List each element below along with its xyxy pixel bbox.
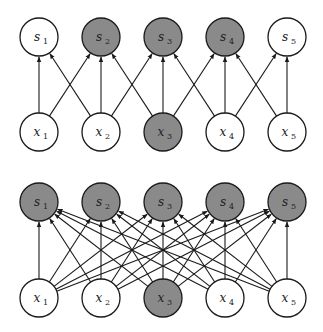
output-node-s3: s3	[144, 18, 182, 56]
input-node-x5: x5	[268, 113, 306, 151]
output-node-s2: s2	[82, 18, 120, 56]
output-node-s3: s3	[144, 183, 182, 221]
node-label: x	[282, 291, 289, 305]
node-subscript: 2	[105, 298, 110, 307]
node-label: s	[96, 30, 102, 44]
node-label: s	[282, 30, 288, 44]
connectivity-diagram: s1s2s3s4s5x1x2x3x4x5 s1s2s3s4s5x1x2x3x4x…	[0, 0, 323, 332]
node-subscript: 1	[43, 132, 48, 141]
node-label: s	[158, 30, 164, 44]
node-subscript: 3	[167, 132, 172, 141]
node-label: x	[282, 125, 289, 139]
input-node-x5: x5	[268, 279, 306, 317]
node-label: x	[96, 125, 103, 139]
node-subscript: 4	[229, 202, 234, 211]
node-subscript: 4	[229, 37, 234, 46]
output-node-s2: s2	[82, 183, 120, 221]
input-node-x4: x4	[206, 113, 244, 151]
input-node-x2: x2	[82, 113, 120, 151]
node-subscript: 5	[291, 202, 296, 211]
node-label: x	[96, 291, 103, 305]
node-label: x	[220, 291, 227, 305]
node-subscript: 3	[167, 298, 172, 307]
output-node-s4: s4	[206, 18, 244, 56]
node-label: s	[34, 195, 40, 209]
node-subscript: 1	[43, 298, 48, 307]
dense-connectivity-diagram: s1s2s3s4s5x1x2x3x4x5	[20, 183, 306, 317]
node-label: x	[158, 125, 165, 139]
node-subscript: 5	[291, 132, 296, 141]
node-label: s	[96, 195, 102, 209]
output-node-s4: s4	[206, 183, 244, 221]
node-label: s	[282, 195, 288, 209]
input-node-x4: x4	[206, 279, 244, 317]
node-subscript: 3	[167, 37, 172, 46]
node-subscript: 3	[167, 202, 172, 211]
sparse-connectivity-diagram: s1s2s3s4s5x1x2x3x4x5	[20, 18, 306, 151]
input-node-x3: x3	[144, 279, 182, 317]
output-node-s5: s5	[268, 183, 306, 221]
node-label: s	[220, 30, 226, 44]
input-node-x1: x1	[20, 279, 58, 317]
node-label: x	[34, 291, 41, 305]
node-label: s	[34, 30, 40, 44]
input-node-x2: x2	[82, 279, 120, 317]
node-subscript: 5	[291, 37, 296, 46]
node-label: x	[34, 125, 41, 139]
node-label: s	[158, 195, 164, 209]
node-label: x	[220, 125, 227, 139]
output-node-s1: s1	[20, 18, 58, 56]
node-subscript: 2	[105, 132, 110, 141]
node-subscript: 2	[105, 202, 110, 211]
output-node-s5: s5	[268, 18, 306, 56]
node-label: s	[220, 195, 226, 209]
node-subscript: 2	[105, 37, 110, 46]
node-subscript: 1	[43, 202, 48, 211]
node-label: x	[158, 291, 165, 305]
node-subscript: 4	[229, 132, 234, 141]
input-node-x3: x3	[144, 113, 182, 151]
input-node-x1: x1	[20, 113, 58, 151]
edges-layer	[39, 54, 287, 116]
node-subscript: 4	[229, 298, 234, 307]
output-node-s1: s1	[20, 183, 58, 221]
node-subscript: 1	[43, 37, 48, 46]
node-subscript: 5	[291, 298, 296, 307]
